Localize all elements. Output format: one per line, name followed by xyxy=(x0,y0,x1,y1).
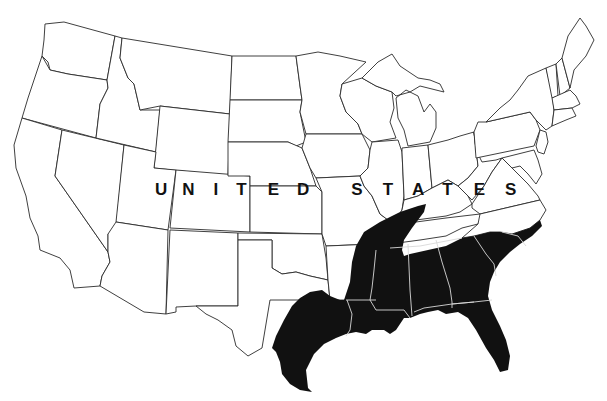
country-label: UNITEDSTATES xyxy=(155,180,516,200)
us-map xyxy=(0,0,607,401)
label-letter: D xyxy=(297,180,309,200)
label-letter: N xyxy=(182,180,194,200)
label-letter: T xyxy=(383,180,393,200)
label-letter: A xyxy=(412,180,424,200)
state-connecticut-ri xyxy=(552,108,576,126)
label-letter: S xyxy=(505,180,516,200)
state-arizona xyxy=(100,222,168,314)
state-iowa xyxy=(302,134,370,178)
label-letter: E xyxy=(268,180,279,200)
label-letter: S xyxy=(351,180,362,200)
label-letter: T xyxy=(236,180,246,200)
state-maine xyxy=(562,18,594,88)
label-letter: I xyxy=(214,180,219,200)
state-wyoming xyxy=(154,106,230,176)
state-south-dakota xyxy=(228,100,306,146)
state-new-mexico xyxy=(166,230,238,314)
label-letter: T xyxy=(442,180,452,200)
label-letter: U xyxy=(155,180,167,200)
label-letter: E xyxy=(474,180,485,200)
state-north-dakota xyxy=(230,56,302,100)
